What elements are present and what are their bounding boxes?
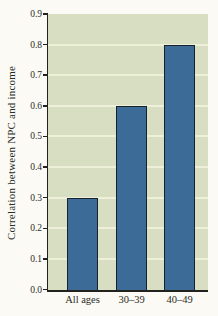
y-tick-mark: [43, 44, 48, 46]
y-tick-label: 0.7: [0, 69, 42, 81]
y-tick-label: 0.4: [0, 161, 42, 173]
y-tick-mark: [43, 258, 48, 260]
bar-40–49: [164, 45, 195, 290]
y-tick-mark: [43, 74, 48, 76]
y-tick-label: 0.1: [0, 253, 42, 265]
bar-chart-figure: Correlation between NPC and income 0.00.…: [0, 0, 218, 316]
y-tick-mark: [43, 228, 48, 230]
y-tick-label: 0.8: [0, 39, 42, 51]
y-tick-mark: [43, 166, 48, 168]
y-tick-mark: [43, 13, 48, 15]
x-tick-label: 40–49: [148, 294, 212, 305]
y-tick-label: 0.0: [0, 284, 42, 296]
y-tick-label: 0.6: [0, 100, 42, 112]
bar-All ages: [67, 198, 98, 290]
y-tick-mark: [43, 289, 48, 291]
y-tick-mark: [43, 105, 48, 107]
y-axis-title: Correlation between NPC and income: [5, 66, 17, 240]
y-tick-label: 0.2: [0, 222, 42, 234]
y-tick-mark: [43, 197, 48, 199]
y-tick-label: 0.9: [0, 8, 42, 20]
bar-30–39: [116, 106, 147, 290]
y-tick-label: 0.5: [0, 130, 42, 142]
y-tick-label: 0.3: [0, 192, 42, 204]
y-tick-mark: [43, 136, 48, 138]
plot-area: [47, 14, 209, 292]
